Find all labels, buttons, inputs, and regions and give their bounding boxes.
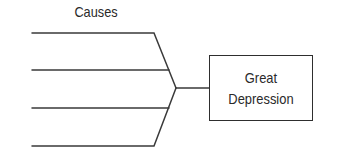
causes-heading: Causes xyxy=(62,3,130,20)
effect-label-line-2: Depression xyxy=(228,88,293,109)
cause-line-4 xyxy=(32,88,176,146)
effect-label: Great Depression xyxy=(228,67,293,109)
effect-box: Great Depression xyxy=(209,55,313,121)
effect-label-line-1: Great xyxy=(228,67,293,88)
cause-line-1 xyxy=(32,33,176,88)
